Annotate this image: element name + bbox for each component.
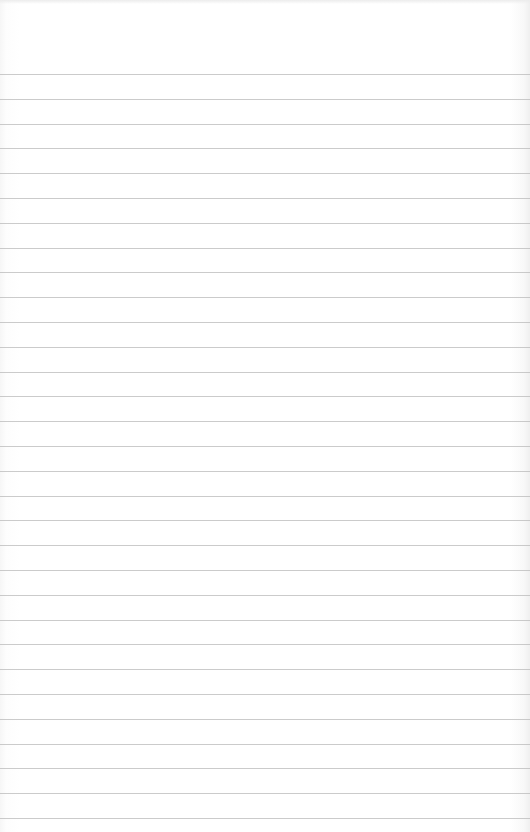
ruled-line <box>0 148 530 149</box>
ruled-line <box>0 471 530 472</box>
ruled-line <box>0 446 530 447</box>
ruled-line <box>0 372 530 373</box>
ruled-line <box>0 719 530 720</box>
ruled-line <box>0 570 530 571</box>
ruled-line <box>0 793 530 794</box>
ruled-line <box>0 297 530 298</box>
ruled-line <box>0 694 530 695</box>
ruled-line <box>0 768 530 769</box>
ruled-line <box>0 248 530 249</box>
ruled-line <box>0 620 530 621</box>
ruled-line <box>0 545 530 546</box>
ruled-line <box>0 595 530 596</box>
ruled-line <box>0 272 530 273</box>
ruled-line <box>0 669 530 670</box>
paper-top-edge <box>0 0 530 4</box>
ruled-line <box>0 496 530 497</box>
ruled-line <box>0 744 530 745</box>
ruled-line <box>0 322 530 323</box>
ruled-line <box>0 198 530 199</box>
lined-paper-sheet <box>0 0 530 832</box>
ruled-line <box>0 173 530 174</box>
ruled-line <box>0 818 530 819</box>
ruled-line <box>0 520 530 521</box>
ruled-line <box>0 74 530 75</box>
ruled-line <box>0 99 530 100</box>
ruled-line <box>0 644 530 645</box>
ruled-line <box>0 396 530 397</box>
ruled-line <box>0 421 530 422</box>
ruled-line <box>0 124 530 125</box>
ruled-line <box>0 347 530 348</box>
ruled-line <box>0 223 530 224</box>
